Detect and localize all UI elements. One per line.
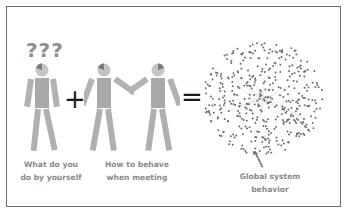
person-meeting-right-icon	[130, 62, 180, 158]
global-system-dot-cloud	[205, 20, 335, 170]
caption-individual: What do you do by yourself	[10, 158, 92, 184]
caption-global: Global system behavior	[225, 170, 315, 196]
person-meeting-left-icon	[84, 62, 134, 158]
caption-interaction: How to behave when meeting	[96, 158, 178, 184]
plus-sign: +	[64, 84, 86, 114]
person-alone-icon	[22, 62, 62, 158]
equals-sign: =	[181, 82, 203, 112]
question-marks: ???	[26, 38, 64, 62]
